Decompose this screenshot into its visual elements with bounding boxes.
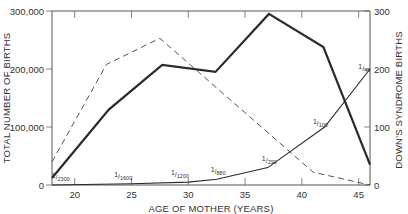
y-left-tick-label: 100,000 — [10, 122, 44, 133]
x-axis-title: AGE OF MOTHER (YEARS) — [148, 203, 273, 214]
incidence-annotation: 1/290 — [262, 155, 277, 165]
x-tick-label: 30 — [183, 189, 194, 200]
x-tick-label: 25 — [126, 189, 137, 200]
chart: 2025303540450100,000200,000300,000010020… — [0, 0, 408, 214]
y-right-tick-label: 300 — [374, 6, 390, 17]
y-left-axis-title: TOTAL NUMBER OF BIRTHS — [1, 33, 12, 164]
incidence-annotation: 1/46 — [358, 63, 370, 73]
incidence-annotation: 1/2300 — [52, 172, 70, 182]
y-right-tick-label: 100 — [374, 122, 390, 133]
y-left-tick-label: 0 — [39, 180, 44, 191]
x-tick-label: 45 — [353, 189, 364, 200]
total-births-line — [52, 38, 370, 185]
x-tick-label: 40 — [297, 189, 308, 200]
y-left-tick-label: 200,000 — [10, 64, 44, 75]
y-left-tick-label: 300,000 — [10, 6, 44, 17]
y-right-axis-title: DOWN'S SYNDROME BIRTHS — [393, 31, 404, 168]
x-tick-label: 20 — [69, 189, 80, 200]
y-right-tick-label: 200 — [374, 64, 390, 75]
incidence-annotation: 1/880 — [211, 166, 226, 176]
x-tick-label: 35 — [240, 189, 251, 200]
y-right-tick-label: 0 — [374, 180, 379, 191]
incidence-annotation: 1/1600 — [114, 171, 132, 181]
incidence-annotation: 1/100 — [313, 118, 328, 128]
incidence-annotation: 1/1200 — [171, 169, 189, 179]
chart-canvas: 2025303540450100,000200,000300,000010020… — [0, 0, 408, 214]
downs-births-line — [52, 14, 370, 178]
